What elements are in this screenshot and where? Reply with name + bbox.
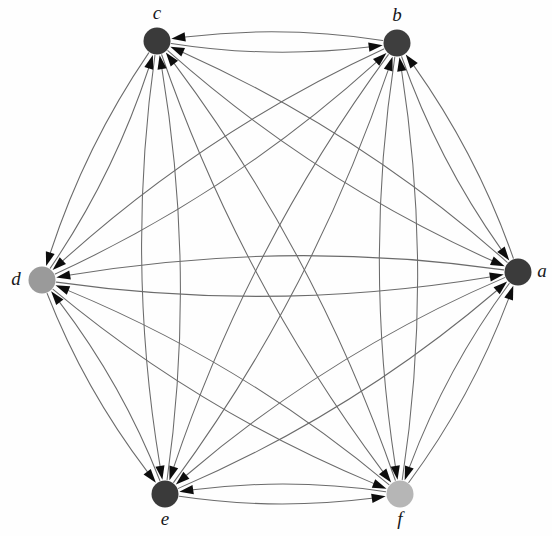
edge-f-to-d <box>68 291 388 485</box>
edge-c-to-d <box>50 53 148 253</box>
directed-graph-figure: abcdef <box>0 0 552 536</box>
node-f[interactable] <box>387 481 414 508</box>
edge-b-to-d <box>63 49 384 261</box>
edge-d-to-a <box>56 277 490 296</box>
arrowhead-a-to-e <box>176 472 190 485</box>
nodes-layer <box>29 28 532 508</box>
edge-b-to-f <box>379 57 395 466</box>
node-label-e: e <box>161 508 169 529</box>
arrowhead-a-to-d <box>56 270 71 279</box>
edge-a-to-f <box>409 284 509 468</box>
edge-e-to-a <box>178 291 496 489</box>
edge-d-to-e <box>47 294 147 472</box>
edge-e-to-c <box>162 69 180 480</box>
edges-layer <box>47 32 513 504</box>
edge-c-to-b <box>171 43 368 52</box>
node-label-d: d <box>11 268 21 289</box>
edge-f-to-b <box>402 71 418 480</box>
edge-f-to-e <box>193 484 385 492</box>
arrowhead-d-to-e <box>144 469 156 483</box>
edge-d-to-f <box>53 289 373 483</box>
edge-d-to-c <box>50 68 148 268</box>
edge-c-to-e <box>142 55 160 466</box>
edge-a-to-d <box>70 256 504 275</box>
node-e[interactable] <box>152 481 179 508</box>
edge-a-to-e <box>186 278 504 476</box>
arrowhead-e-to-c <box>158 55 167 70</box>
node-label-f: f <box>397 508 405 529</box>
arrowhead-b-to-c <box>171 32 186 41</box>
node-labels-layer: abcdef <box>11 2 547 529</box>
node-b[interactable] <box>384 30 411 57</box>
node-a[interactable] <box>505 259 532 286</box>
edge-e-to-b <box>174 70 389 482</box>
arrowhead-e-to-a <box>494 282 508 295</box>
edge-a-to-b <box>414 66 513 258</box>
graph-canvas: abcdef <box>0 0 552 536</box>
arrowhead-d-to-a <box>489 273 504 282</box>
edge-d-to-b <box>55 62 376 274</box>
node-d[interactable] <box>29 267 56 294</box>
node-label-b: b <box>392 4 402 25</box>
edge-f-to-a <box>409 299 509 483</box>
edge-b-to-e <box>174 55 389 467</box>
arrowhead-c-to-f <box>379 469 391 483</box>
edge-e-to-d <box>60 302 160 480</box>
edge-a-to-c <box>183 52 507 262</box>
edge-f-to-c <box>174 64 395 481</box>
edge-b-to-c <box>185 32 382 41</box>
edge-e-to-f <box>179 496 371 504</box>
arrowhead-e-to-f <box>371 494 386 503</box>
node-label-c: c <box>153 2 162 23</box>
arrowhead-a-to-b <box>406 55 418 69</box>
node-c[interactable] <box>144 28 171 55</box>
node-label-a: a <box>537 260 547 281</box>
edge-c-to-a <box>168 51 492 261</box>
